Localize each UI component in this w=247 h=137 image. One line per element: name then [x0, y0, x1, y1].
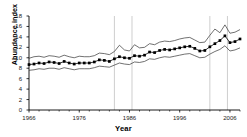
data-point-marker	[168, 49, 171, 52]
data-point-marker	[113, 57, 116, 60]
data-point-marker	[118, 55, 121, 58]
data-point-marker	[209, 45, 212, 48]
data-point-marker	[193, 47, 196, 50]
data-point-marker	[229, 41, 232, 44]
data-point-marker	[173, 48, 176, 51]
abundance-index-chart: Abundance index Year 024681012141618 196…	[0, 0, 247, 137]
data-point-marker	[98, 59, 101, 62]
data-point-marker	[153, 51, 156, 54]
data-point-marker	[123, 56, 126, 59]
data-point-marker	[38, 62, 41, 65]
data-point-marker	[224, 34, 227, 37]
data-point-marker	[83, 62, 86, 65]
data-point-marker	[28, 63, 31, 66]
data-point-marker	[93, 61, 96, 64]
data-point-marker	[138, 55, 141, 58]
data-point-marker	[148, 51, 151, 54]
data-point-marker	[158, 49, 161, 52]
data-point-marker	[234, 40, 237, 43]
data-point-marker	[143, 54, 146, 57]
data-point-marker	[198, 50, 201, 53]
data-point-marker	[43, 62, 46, 65]
data-point-marker	[68, 62, 71, 65]
data-point-marker	[88, 62, 91, 65]
data-point-marker	[133, 54, 136, 57]
data-point-marker	[214, 42, 217, 45]
data-point-marker	[183, 45, 186, 48]
data-point-marker	[128, 57, 131, 60]
plot-canvas	[0, 0, 247, 137]
data-point-marker	[73, 63, 76, 66]
data-point-marker	[58, 62, 61, 65]
data-point-marker	[239, 38, 242, 41]
data-point-marker	[188, 45, 191, 48]
data-point-marker	[48, 61, 51, 64]
data-point-marker	[219, 39, 222, 42]
data-point-marker	[103, 59, 106, 62]
data-point-marker	[33, 63, 36, 66]
data-point-marker	[178, 47, 181, 50]
data-point-marker	[108, 60, 111, 63]
data-point-marker	[163, 48, 166, 51]
data-point-marker	[203, 49, 206, 52]
data-point-marker	[63, 60, 66, 63]
data-point-marker	[78, 62, 81, 65]
data-point-marker	[53, 61, 56, 64]
